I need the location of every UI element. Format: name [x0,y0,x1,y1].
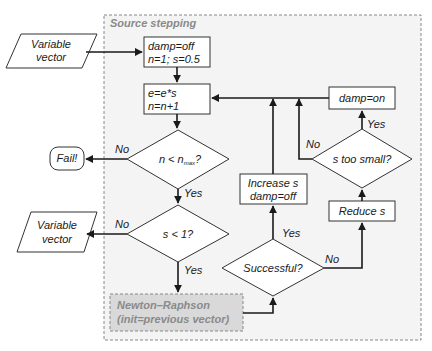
damp-on-node: damp=on [329,87,395,109]
group-title: Source stepping [110,17,196,29]
label-check-s-no: No [115,218,129,230]
init-node: damp=off n=1; s=0.5 [144,37,210,67]
label-check-n-no: No [115,143,129,155]
input-vector-line1: Variable [31,38,71,50]
input-vector-line2: vector [36,51,67,63]
label-check-s-yes: Yes [184,264,203,276]
check-s-label: s < 1? [163,228,194,240]
damp-on-label: damp=on [339,92,385,104]
update-line2: n=n+1 [148,100,179,112]
label-successful-yes: Yes [282,227,301,239]
output-vector-line1: Variable [37,219,77,231]
reduce-node: Reduce s [329,201,395,221]
flowchart: Source stepping Variable vector damp=off… [0,0,432,351]
output-vector-node: Variable vector [17,212,97,252]
fail-label: Fail! [57,152,78,164]
reduce-label: Reduce s [339,205,386,217]
update-node: e=e*s n=n+1 [144,84,210,114]
input-vector-node: Variable vector [6,34,97,68]
output-vector-line2: vector [42,233,73,245]
label-too-small-no: No [306,138,320,150]
increase-node: Increase s damp=off [240,174,307,204]
init-line1: damp=off [148,40,195,52]
init-line2: n=1; s=0.5 [148,53,201,65]
label-too-small-yes: Yes [367,118,386,130]
successful-label: Successful? [243,262,303,274]
newton-raphson-node: Newton–Raphson (init=previous vector) [110,294,243,331]
increase-line1: Increase s [248,177,299,189]
increase-line2: damp=off [250,190,297,202]
too-small-label: s too small? [333,153,393,165]
newton-line2: (init=previous vector) [117,313,230,325]
check-n-label: n < nmax? [159,153,202,166]
update-line1: e=e*s [148,87,177,99]
fail-node: Fail! [50,147,84,170]
newton-line1: Newton–Raphson [117,299,210,311]
label-check-n-yes: Yes [184,187,203,199]
label-successful-no: No [325,253,339,265]
